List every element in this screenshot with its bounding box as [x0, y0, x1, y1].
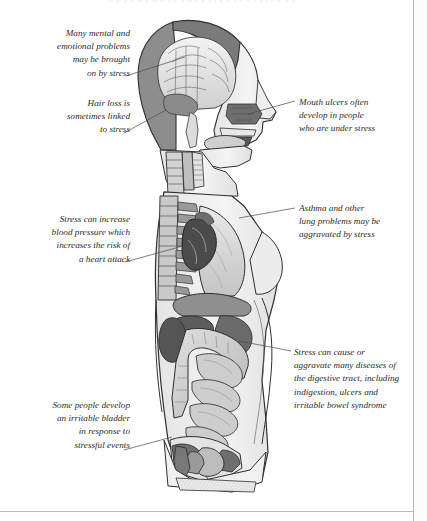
leader-mouth-note: [248, 101, 295, 114]
leader-brain-note: [126, 57, 185, 76]
page-margin-right: [414, 0, 427, 521]
annotation-hair-note: Hair loss is sometimes linked to stress: [24, 97, 130, 137]
leader-hair-note: [124, 110, 166, 133]
page-rule-horizontal: [0, 511, 413, 512]
annotation-heart-note: Stress can increase blood pressure which…: [10, 213, 130, 266]
annotation-bladder-note: Some people develop an irritable bladder…: [10, 399, 130, 452]
annotation-mouth-note: Mouth ulcers often develop in people who…: [299, 96, 421, 136]
leader-bladder-note: [124, 437, 172, 450]
leader-heart-note: [125, 243, 194, 262]
annotation-lung-note: Asthma and other lung problems may be ag…: [299, 202, 421, 242]
leader-lung-note: [239, 208, 295, 218]
page-canvas: a p p e a r a n c e t h e e f f e c t s …: [0, 0, 427, 521]
leader-digestive-note: [239, 341, 291, 351]
annotation-brain-note: Many mental and emotional problems may b…: [14, 27, 130, 80]
annotation-digestive-note: Stress can cause or aggravate many disea…: [294, 346, 422, 412]
